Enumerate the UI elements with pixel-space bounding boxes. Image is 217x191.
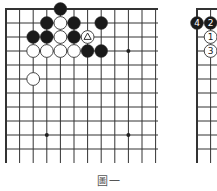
go-diagram: 4213	[0, 0, 217, 191]
move-number: 2	[208, 18, 214, 28]
figure-caption-text: 圖一	[97, 175, 121, 188]
white-stone	[68, 45, 81, 58]
white-stone: 1	[204, 31, 217, 44]
black-stone	[68, 31, 81, 44]
black-stone	[95, 17, 108, 30]
black-stone: 2	[204, 17, 217, 30]
black-stone	[54, 3, 67, 16]
white-stone	[54, 31, 67, 44]
white-stone	[27, 73, 40, 86]
black-stone	[95, 45, 108, 58]
star-point	[45, 133, 49, 137]
white-stone: 3	[204, 45, 217, 58]
move-number: 3	[208, 46, 214, 56]
star-point	[126, 133, 130, 137]
white-stone	[81, 31, 94, 44]
move-number: 1	[208, 32, 214, 42]
right-go-board: 4213	[191, 9, 217, 163]
black-stone	[68, 17, 81, 30]
black-stone	[27, 31, 40, 44]
black-stone	[40, 31, 53, 44]
white-stone	[54, 45, 67, 58]
black-stone	[81, 45, 94, 58]
left-go-board	[5, 3, 158, 163]
black-stone: 4	[191, 17, 204, 30]
white-stone	[27, 45, 40, 58]
black-stone	[40, 17, 53, 30]
star-point	[126, 49, 130, 53]
figure-caption: 圖一	[0, 172, 217, 188]
white-stone	[54, 17, 67, 30]
move-number: 4	[194, 18, 200, 28]
white-stone	[40, 45, 53, 58]
